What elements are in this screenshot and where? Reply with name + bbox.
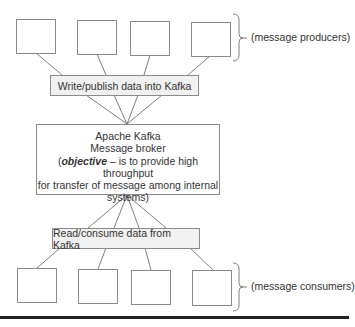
consumer-box-4 — [192, 270, 232, 306]
broker-objective-line2: for transfer of message among internal — [37, 179, 219, 191]
bottom-divider — [0, 316, 349, 319]
producer-box-1 — [16, 19, 56, 54]
consumer-box-3 — [131, 270, 171, 305]
producer-box-4 — [191, 22, 231, 57]
broker-title: Apache Kafka — [37, 130, 219, 142]
broker-subtitle: Message broker — [37, 142, 219, 154]
producers-label: (message producers) — [251, 31, 350, 43]
kafka-broker-box: Apache Kafka Message broker (objective –… — [36, 124, 220, 195]
write-publish-bar: Write/publish data into Kafka — [50, 75, 199, 96]
producer-box-3 — [130, 21, 170, 56]
consumers-label: (message consumers) — [251, 280, 355, 292]
objective-keyword: objective — [61, 155, 107, 167]
read-consume-label: Read/consume data from Kafka — [53, 227, 199, 251]
consumer-box-2 — [78, 269, 118, 304]
broker-objective-line3: systems) — [37, 191, 219, 203]
read-consume-bar: Read/consume data from Kafka — [52, 228, 200, 249]
broker-objective-line1: (objective – is to provide high throughp… — [37, 155, 219, 180]
consumer-box-1 — [17, 268, 57, 303]
objective-text: – is to provide high throughput — [103, 155, 198, 179]
producer-box-2 — [77, 20, 117, 55]
write-publish-label: Write/publish data into Kafka — [58, 80, 191, 92]
